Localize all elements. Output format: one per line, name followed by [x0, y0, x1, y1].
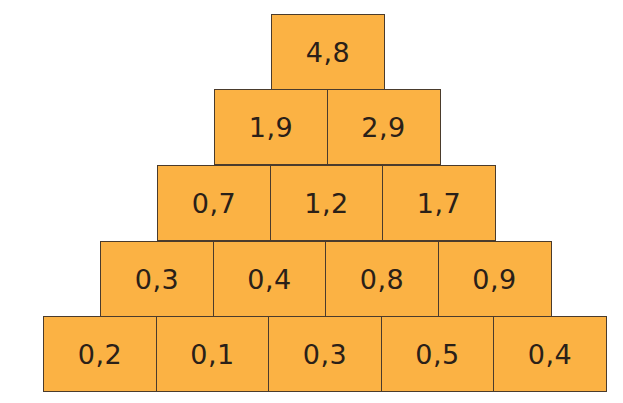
pyramid-row-2: 1,9 2,9: [214, 89, 441, 165]
pyramid-row-4: 0,3 0,4 0,8 0,9: [100, 241, 552, 317]
pyramid-brick: 0,4: [493, 316, 607, 392]
pyramid-brick: 0,9: [438, 241, 552, 317]
pyramid-brick: 1,7: [382, 165, 496, 241]
pyramid-brick: 0,5: [381, 316, 495, 392]
pyramid-row-1: 4,8: [271, 14, 385, 90]
pyramid-row-5: 0,2 0,1 0,3 0,5 0,4: [43, 316, 607, 392]
number-pyramid: 4,8 1,9 2,9 0,7 1,2 1,7 0,3 0,4 0,8 0,9 …: [0, 0, 623, 403]
pyramid-brick: 2,9: [327, 89, 441, 165]
pyramid-brick: 0,2: [43, 316, 157, 392]
pyramid-brick: 0,7: [157, 165, 271, 241]
pyramid-brick: 1,9: [214, 89, 328, 165]
pyramid-brick: 0,3: [268, 316, 382, 392]
pyramid-brick: 0,8: [325, 241, 439, 317]
pyramid-brick: 0,1: [156, 316, 270, 392]
pyramid-brick: 0,3: [100, 241, 214, 317]
pyramid-row-3: 0,7 1,2 1,7: [157, 165, 496, 241]
pyramid-brick: 1,2: [270, 165, 384, 241]
pyramid-brick: 4,8: [271, 14, 385, 90]
pyramid-brick: 0,4: [213, 241, 327, 317]
